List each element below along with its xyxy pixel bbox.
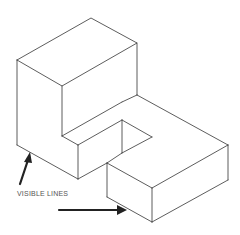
step-top-edge <box>78 120 122 145</box>
slab-left-top-edge <box>107 163 152 188</box>
isometric-block-drawing <box>0 0 240 235</box>
upper-base-edge <box>122 95 137 102</box>
upper-block-top-face <box>17 18 137 86</box>
visible-lines-label: VISIBLE LINES <box>17 190 68 197</box>
notch-bottom-edge <box>107 153 122 163</box>
arrow-icon <box>59 205 127 215</box>
isometric-diagram: VISIBLE LINES <box>0 0 240 235</box>
inner-crease-edge <box>62 102 122 136</box>
step-bottom-edge <box>78 163 107 179</box>
slab-right-bottom-edge <box>152 180 228 222</box>
inner-step-edge <box>62 136 78 145</box>
notch-front-edge <box>122 137 152 153</box>
notch-right-top-edge <box>122 120 152 137</box>
arrow-icon <box>20 152 32 184</box>
slab-front-top-edge <box>152 145 228 188</box>
